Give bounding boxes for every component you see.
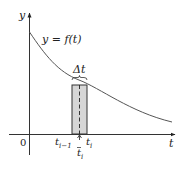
delta-t-brace xyxy=(72,76,87,81)
t-i-label: ti xyxy=(86,136,92,150)
t-i-minus-1-label: ti−1 xyxy=(55,136,72,150)
t-axis-label: t xyxy=(169,137,174,150)
riemann-diagram: y y = f(t) Δt 0 t ti−1 ti ti xyxy=(0,0,189,171)
origin-label: 0 xyxy=(20,137,26,148)
sample-point-arrow-icon xyxy=(78,135,82,140)
t-bar-i-label: ti xyxy=(77,147,83,161)
curve-label: y = f(t) xyxy=(41,33,82,46)
y-axis-label: y xyxy=(18,9,26,22)
delta-t-label: Δt xyxy=(72,63,86,76)
